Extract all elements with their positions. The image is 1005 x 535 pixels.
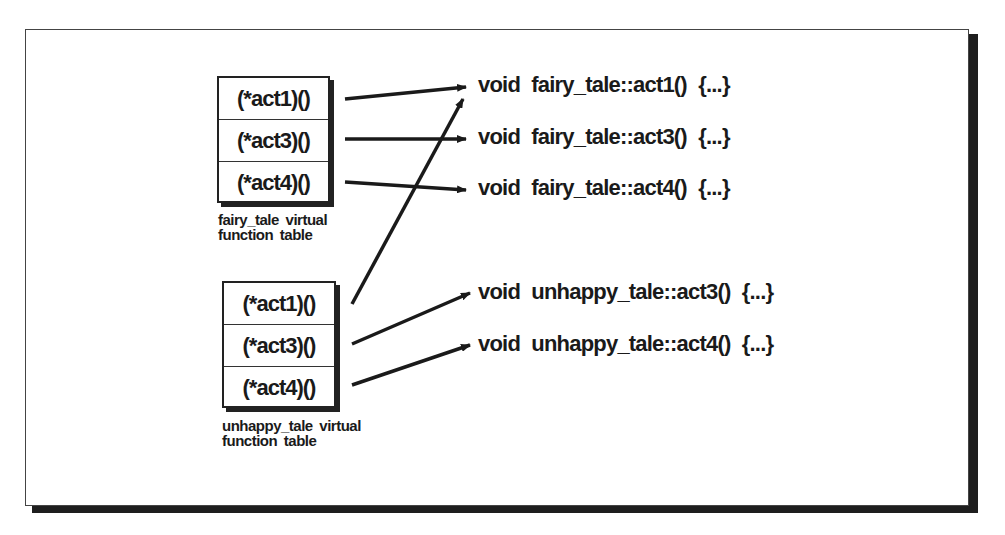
arrow-unhappy-act4 (352, 345, 470, 385)
pointer-arrows (0, 0, 1005, 535)
arrow-unhappy-act3 (352, 293, 470, 344)
arrow-unhappy-act1 (352, 99, 463, 304)
arrow-fairy-act1 (345, 87, 466, 99)
arrow-fairy-act4 (345, 182, 466, 190)
